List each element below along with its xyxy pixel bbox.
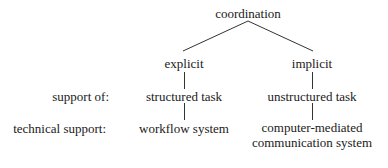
node-computer-mediated: computer-mediated: [262, 120, 363, 135]
row-label-technical-support: technical support:: [13, 121, 106, 136]
row-label-support-of: support of:: [52, 89, 109, 104]
node-workflow-system: workflow system: [139, 121, 229, 136]
node-unstructured-task: unstructured task: [267, 89, 356, 104]
node-implicit: implicit: [292, 56, 332, 71]
node-communication-system: communication system: [252, 135, 372, 150]
edge-coordination-implicit: [248, 21, 313, 51]
coordination-tree-diagram: coordination explicit implicit support o…: [0, 0, 388, 168]
node-structured-task: structured task: [146, 89, 222, 104]
edge-coordination-explicit: [183, 21, 248, 51]
node-explicit: explicit: [165, 56, 204, 71]
node-coordination: coordination: [215, 6, 281, 21]
